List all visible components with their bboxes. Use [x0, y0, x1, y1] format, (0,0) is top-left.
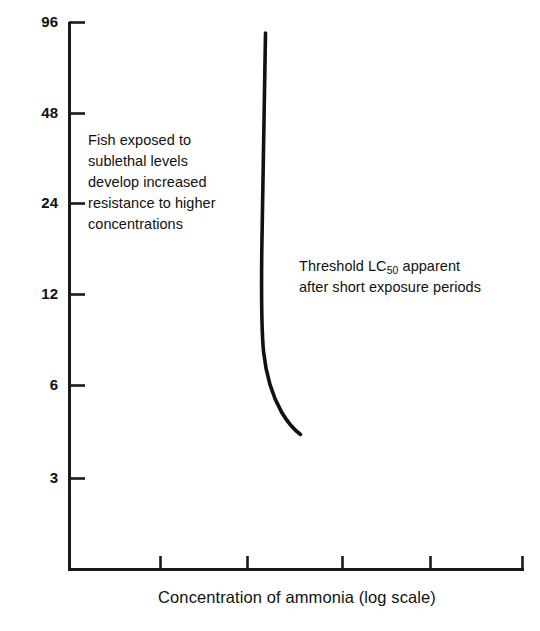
- y-tick-label-24: 24: [24, 195, 58, 210]
- chart-figure: 96 48 24 12 6 3 Median survival time (h)…: [0, 0, 540, 631]
- x-axis-ticks: [161, 556, 523, 570]
- x-axis-title: Concentration of ammonia (log scale): [69, 588, 525, 607]
- annotation-sublethal: Fish exposed to sublethal levels develop…: [88, 130, 216, 235]
- annotation-threshold-line1-after: apparent: [398, 258, 460, 274]
- y-tick-label-12: 12: [24, 286, 58, 301]
- annotation-threshold-line2: after short exposure periods: [299, 279, 481, 295]
- y-tick-label-96: 96: [24, 14, 58, 29]
- annotation-threshold: Threshold LC50 apparentafter short expos…: [299, 256, 481, 298]
- toxicity-curve: [262, 33, 301, 435]
- y-tick-label-6: 6: [24, 377, 58, 392]
- annotation-threshold-line1-before: Threshold LC: [299, 258, 387, 274]
- plot-area: [0, 0, 540, 631]
- y-axis-ticks: [69, 23, 85, 479]
- y-tick-label-3: 3: [24, 470, 58, 485]
- y-tick-label-group: 96 48 24 12 6 3: [0, 0, 58, 631]
- annotation-threshold-subscript: 50: [387, 264, 399, 276]
- y-tick-label-48: 48: [24, 105, 58, 120]
